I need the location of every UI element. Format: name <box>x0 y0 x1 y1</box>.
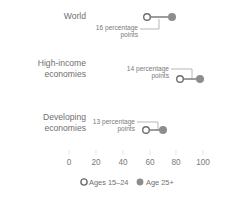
chart-legend: Ages 15–24 Age 25+ <box>81 178 174 187</box>
category-label-developing-line1: Developing <box>43 112 86 122</box>
x-tick-label-20: 20 <box>91 158 101 167</box>
marker-young-developing <box>143 127 150 134</box>
legend-item-age-25-plus[interactable]: Age 25+ <box>137 178 174 187</box>
category-label-high-income-line2: economies <box>44 69 86 79</box>
category-label-developing-line2: economies <box>44 123 86 133</box>
x-tick-label-40: 40 <box>118 158 128 167</box>
x-tick-label-80: 80 <box>171 158 181 167</box>
annotation-developing-line2: points <box>117 125 135 133</box>
marker-young-high-income <box>177 76 184 83</box>
dumbbell-chart: World 16 percentage points High-income e… <box>0 0 230 198</box>
x-tick-label-100: 100 <box>196 158 210 167</box>
category-label-high-income-line1: High-income <box>38 58 86 68</box>
legend-label-age-25-plus: Age 25+ <box>146 178 174 187</box>
marker-young-world <box>144 14 151 21</box>
legend-open-circle-icon <box>81 179 87 185</box>
chart-row-developing: Developing economies 13 percentage point… <box>43 112 167 134</box>
category-label-world: World <box>64 11 87 21</box>
legend-label-ages-15-24: Ages 15–24 <box>89 178 128 187</box>
annotation-high-income-line2: points <box>151 72 169 80</box>
marker-old-high-income <box>196 75 204 83</box>
x-tick-label-60: 60 <box>145 158 155 167</box>
x-tick-label-0: 0 <box>67 158 72 167</box>
chart-row-world: World 16 percentage points <box>64 11 176 39</box>
chart-row-high-income: High-income economies 14 percentage poin… <box>38 58 204 83</box>
x-axis: 0 20 40 60 80 100 <box>67 150 211 167</box>
legend-item-ages-15-24[interactable]: Ages 15–24 <box>81 178 129 187</box>
leader-line-world <box>140 19 159 29</box>
marker-old-world <box>168 13 176 21</box>
annotation-world-line2: points <box>120 31 138 39</box>
legend-filled-circle-icon <box>137 179 144 186</box>
marker-old-developing <box>159 126 167 134</box>
